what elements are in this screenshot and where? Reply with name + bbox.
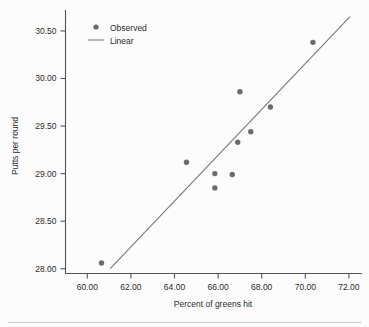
- data-point: [237, 89, 242, 94]
- y-tick-label: 28.00: [35, 264, 57, 274]
- x-tick-label: 70.00: [295, 282, 317, 292]
- x-tick-label: 68.00: [251, 282, 273, 292]
- legend-marker-observed: [93, 24, 98, 29]
- x-tick-label: 60.00: [77, 282, 99, 292]
- scatter-plot-figure: 60.0062.0064.0066.0068.0070.0072.00 28.0…: [0, 0, 369, 327]
- x-tick-label: 64.00: [164, 282, 186, 292]
- y-tick-label: 29.50: [35, 121, 57, 131]
- x-tick-label: 72.00: [338, 282, 360, 292]
- x-tick-label: 62.00: [120, 282, 142, 292]
- y-axis-title: Putts per round: [10, 117, 20, 175]
- legend-label-linear: Linear: [110, 36, 134, 46]
- y-tick-label: 30.50: [35, 26, 57, 36]
- data-point: [235, 140, 240, 145]
- legend-label-observed: Observed: [110, 23, 147, 33]
- data-point: [212, 185, 217, 190]
- y-tick-label: 30.00: [35, 73, 57, 83]
- chart-canvas: 60.0062.0064.0066.0068.0070.0072.00 28.0…: [0, 0, 369, 327]
- data-point: [248, 129, 253, 134]
- data-point: [99, 260, 104, 265]
- data-point: [212, 171, 217, 176]
- data-point: [268, 104, 273, 109]
- y-tick-label: 28.50: [35, 216, 57, 226]
- x-axis-title: Percent of greens hit: [174, 299, 253, 309]
- y-tick-label: 29.00: [35, 169, 57, 179]
- data-point: [230, 172, 235, 177]
- data-point: [310, 40, 315, 45]
- x-tick-label: 66.00: [207, 282, 229, 292]
- data-point: [184, 160, 189, 165]
